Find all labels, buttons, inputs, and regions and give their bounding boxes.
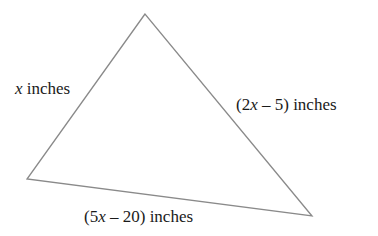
side-label-bottom-variable: x: [98, 207, 106, 226]
side-label-bottom-prefix: (5: [84, 207, 98, 226]
triangle-outline: [27, 14, 312, 216]
side-label-right-suffix: – 5): [258, 95, 289, 114]
side-label-right-variable: x: [250, 95, 258, 114]
side-label-left: x inches: [15, 80, 70, 97]
side-label-bottom-suffix: – 20): [106, 207, 146, 226]
side-label-left-unit: inches: [23, 79, 71, 98]
side-label-left-variable: x: [15, 79, 23, 98]
side-label-bottom-unit: inches: [145, 207, 193, 226]
triangle-diagram: x inches (2x – 5) inches (5x – 20) inche…: [0, 0, 378, 236]
side-label-right-prefix: (2: [236, 95, 250, 114]
side-label-right-unit: inches: [289, 95, 337, 114]
triangle-shape: [0, 0, 378, 236]
side-label-right: (2x – 5) inches: [236, 96, 337, 113]
side-label-bottom: (5x – 20) inches: [84, 208, 193, 225]
